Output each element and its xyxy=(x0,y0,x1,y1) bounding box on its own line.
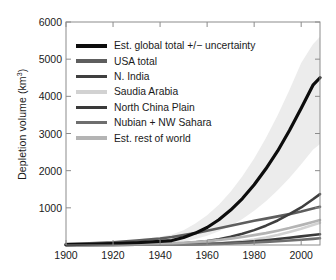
legend-swatch-line-icon xyxy=(76,90,107,93)
legend-item-label: North China Plain xyxy=(114,102,195,113)
legend-item-label: Saudia Arabia xyxy=(114,86,178,97)
depletion-volume-chart: Depletion volume (km3) 10002000300040005… xyxy=(0,0,336,280)
legend-item[interactable]: North China Plain xyxy=(76,100,276,115)
legend-swatch-line-icon xyxy=(76,136,107,139)
legend-item[interactable]: Nubian + NW Sahara xyxy=(76,115,276,130)
chart-legend: Est. global total +/− uncertaintyUSA tot… xyxy=(76,38,276,146)
legend-swatch-line-icon xyxy=(76,121,107,124)
legend-item-label: Est. global total +/− uncertainty xyxy=(114,40,255,51)
legend-item-label: N. India xyxy=(114,71,150,82)
legend-swatch-line-icon xyxy=(76,44,107,48)
legend-item-label: Nubian + NW Sahara xyxy=(114,117,212,128)
legend-swatch-line-icon xyxy=(76,106,107,109)
legend-item-label: USA total xyxy=(114,56,157,67)
legend-swatch-line-icon xyxy=(76,59,107,62)
legend-item[interactable]: N. India xyxy=(76,69,276,84)
legend-swatch-line-icon xyxy=(76,75,107,78)
legend-item[interactable]: Est. global total +/− uncertainty xyxy=(76,38,276,53)
legend-item[interactable]: USA total xyxy=(76,53,276,68)
legend-item[interactable]: Est. rest of world xyxy=(76,130,276,145)
legend-item-label: Est. rest of world xyxy=(114,133,191,144)
legend-item[interactable]: Saudia Arabia xyxy=(76,84,276,99)
